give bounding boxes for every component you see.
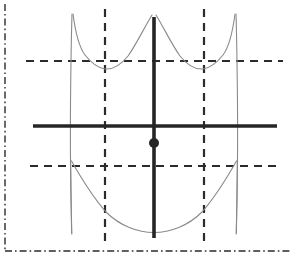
marked-point: [149, 138, 159, 148]
figure-canvas: [0, 0, 297, 256]
figure-container: [0, 0, 297, 256]
figure-background: [0, 0, 297, 256]
